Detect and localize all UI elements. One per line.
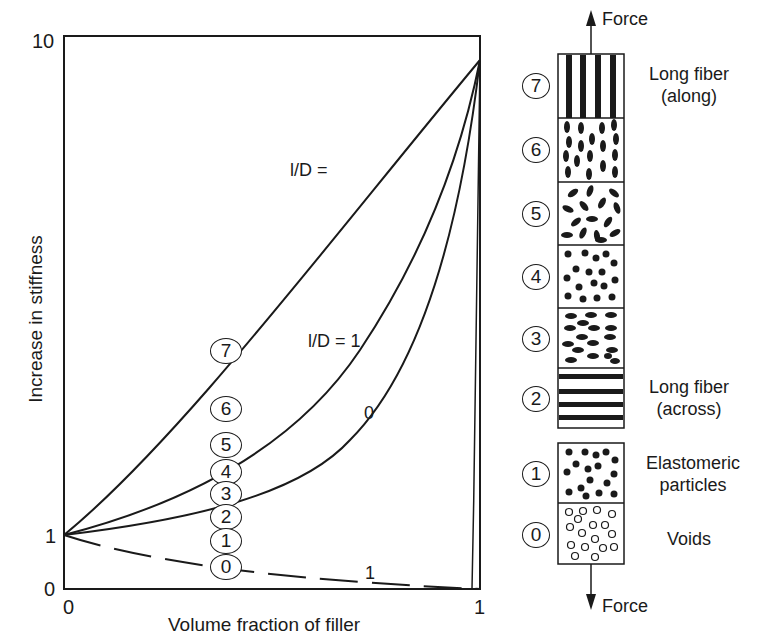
force-label-top: Force xyxy=(602,8,648,30)
strip-marker-1: 1 xyxy=(522,461,550,487)
strip-marker-6: 6 xyxy=(522,137,550,163)
chart-marker-1: 1 xyxy=(210,528,242,554)
strip-marker-3: 3 xyxy=(522,326,550,352)
x-tick-1: 1 xyxy=(474,596,485,619)
strip-desc-2-line2: (across) xyxy=(634,398,744,420)
x-tick-0: 0 xyxy=(63,596,74,619)
curve-label-ld-infinity: l/D = xyxy=(290,160,328,181)
curve-ld-infinity xyxy=(64,60,480,535)
chart-marker-2: 2 xyxy=(210,504,242,530)
force-arrow-down-icon xyxy=(586,594,596,610)
y-axis-title: Increase in stiffness xyxy=(25,219,47,419)
curve-label-ld-0: 0 xyxy=(364,403,374,424)
chart-marker-0: 0 xyxy=(210,554,242,580)
curve-ld-0 xyxy=(64,60,480,535)
curve-ld-1 xyxy=(64,60,480,535)
y-tick-0: 0 xyxy=(44,578,55,601)
strip-desc-7-line2: (along) xyxy=(634,85,744,107)
curve-voids-dashed xyxy=(64,535,480,589)
strip-marker-2: 2 xyxy=(522,386,550,412)
strip-upper xyxy=(558,54,624,428)
chart-marker-6: 6 xyxy=(210,396,242,422)
strip-desc-0: Voids xyxy=(634,528,744,550)
curve-label-dashed-1: 1 xyxy=(365,563,375,584)
curve-right-edge xyxy=(472,60,480,589)
x-axis-title: Volume fraction of filler xyxy=(168,614,360,636)
strip-desc-1-line1: Elastomeric xyxy=(628,452,758,474)
chart-marker-5: 5 xyxy=(210,432,242,458)
strip-desc-7-line1: Long fiber xyxy=(634,63,744,85)
force-arrow-up-icon xyxy=(586,10,596,26)
force-label-bottom: Force xyxy=(602,595,648,617)
y-tick-1: 1 xyxy=(45,525,56,548)
strip-desc-2: Long fiber (across) xyxy=(634,376,744,420)
strip-marker-7: 7 xyxy=(522,73,550,99)
curve-label-ld-1: l/D = 1 xyxy=(308,331,361,352)
strip-desc-2-line1: Long fiber xyxy=(634,376,744,398)
strip-marker-5: 5 xyxy=(522,201,550,227)
y-tick-10: 10 xyxy=(32,30,54,53)
strip-marker-4: 4 xyxy=(522,264,550,290)
strip-desc-1-line2: particles xyxy=(628,474,758,496)
strip-desc-1: Elastomeric particles xyxy=(628,452,758,496)
chart-marker-7: 7 xyxy=(210,338,242,364)
strip-marker-0: 0 xyxy=(522,522,550,548)
strip-desc-7: Long fiber (along) xyxy=(634,63,744,107)
strip-lower xyxy=(558,443,624,564)
